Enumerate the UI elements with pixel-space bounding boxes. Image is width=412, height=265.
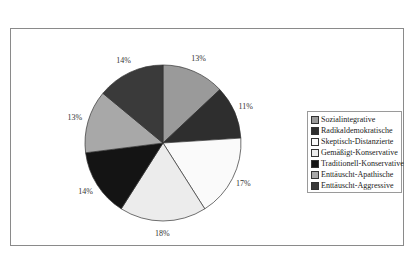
legend-item: Traditionell-Konservative: [311, 158, 399, 169]
legend-swatch: [311, 171, 319, 179]
slice-label: 13%: [191, 54, 206, 63]
slice-label: 18%: [155, 229, 170, 238]
slice-label: 14%: [116, 56, 131, 65]
legend-item: Gemäßigt-Konservative: [311, 147, 399, 158]
legend-swatch: [311, 138, 319, 146]
legend-item: Enttäuscht-Apathische: [311, 169, 399, 180]
legend-swatch: [311, 149, 319, 157]
legend-item: Enttäuscht-Aggressive: [311, 180, 399, 191]
legend: Sozialintegrative Radikaldemokratische S…: [307, 111, 402, 193]
slice-label: 11%: [239, 102, 253, 111]
legend-swatch: [311, 160, 319, 168]
slice-label: 14%: [78, 187, 93, 196]
legend-item: Radikaldemokratische: [311, 125, 399, 136]
legend-item: Sozialintegrative: [311, 114, 399, 125]
legend-swatch: [311, 127, 319, 135]
legend-swatch: [311, 116, 319, 124]
legend-swatch: [311, 182, 319, 190]
slice-label: 17%: [236, 179, 251, 188]
legend-item: Skeptisch-Distanzierte: [311, 136, 399, 147]
slice-label: 13%: [68, 113, 83, 122]
